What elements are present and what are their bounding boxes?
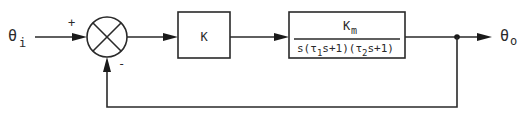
plant-denominator-mid: s+1)(τ bbox=[322, 42, 362, 55]
gain-block-label: K bbox=[200, 30, 208, 44]
plant-numerator-subscript: m bbox=[351, 25, 357, 36]
plant-numerator-symbol: K bbox=[343, 19, 351, 33]
minus-sign: - bbox=[118, 57, 125, 71]
feedback-arrow-head-icon bbox=[103, 57, 111, 72]
error-arrow-head-icon bbox=[163, 33, 178, 41]
plant-block: K m s(τ1s+1)(τ2s+1) bbox=[289, 12, 405, 58]
output-symbol: θ bbox=[500, 27, 509, 45]
input-arrow-head-icon bbox=[72, 33, 87, 41]
summing-junction bbox=[87, 17, 127, 57]
plant-denominator-prefix: s(τ bbox=[297, 42, 317, 55]
plus-sign: + bbox=[68, 16, 75, 30]
plant-denominator-suffix: s+1) bbox=[367, 42, 394, 55]
input-label: θ i bbox=[8, 27, 26, 50]
gain-block: K bbox=[178, 12, 230, 58]
input-subscript: i bbox=[19, 36, 26, 50]
gain-output-arrow-head-icon bbox=[274, 33, 289, 41]
block-diagram: θ i + - K K m s(τ1s+1)(τ2s+1) bbox=[0, 0, 524, 115]
output-subscript: o bbox=[510, 34, 517, 48]
output-arrow-head-icon bbox=[477, 33, 492, 41]
output-label: θ o bbox=[500, 27, 517, 48]
input-symbol: θ bbox=[8, 27, 17, 45]
